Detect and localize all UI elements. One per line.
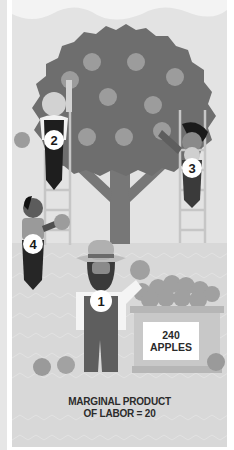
marginal-product-caption: MARGINAL PRODUCT OF LABOR = 20 <box>12 396 227 420</box>
worker-badge-1-number: 1 <box>97 294 104 309</box>
illustration-panel: 2 3 4 <box>12 0 227 447</box>
page-edge-strip <box>0 0 7 450</box>
crate-label: 240 APPLES <box>143 322 199 360</box>
crate-apple-unit: APPLES <box>150 341 192 353</box>
worker-badge-4-number: 4 <box>29 237 37 252</box>
caption-line-1: MARGINAL PRODUCT <box>12 396 227 408</box>
apple-icon <box>54 214 70 230</box>
apple-icon <box>207 353 225 371</box>
crate-apple-count: 240 <box>162 329 180 341</box>
worker-badge-2-number: 2 <box>50 133 57 148</box>
cloud-scallop <box>12 0 227 20</box>
apple-icon <box>57 356 75 374</box>
orchard-scene: 2 3 4 <box>12 0 227 447</box>
apple-icon <box>33 358 51 376</box>
worker-badge-3-number: 3 <box>188 161 195 176</box>
caption-line-2: OF LABOR = 20 <box>12 408 227 420</box>
